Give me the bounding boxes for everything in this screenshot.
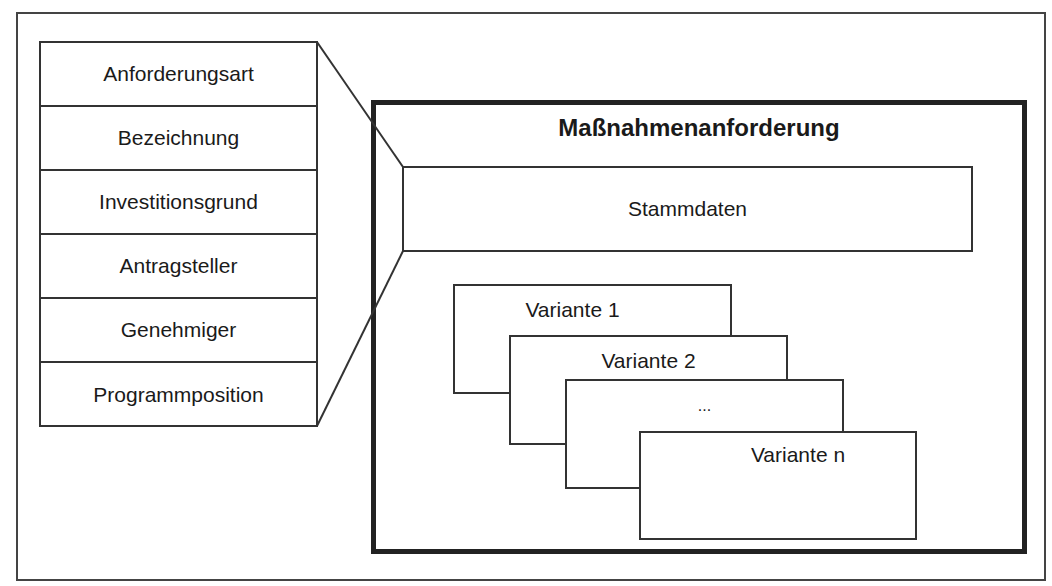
- zoom-connector-lines: [0, 0, 1052, 586]
- connector-line-bottom: [317, 251, 403, 426]
- connector-line-top: [317, 42, 403, 167]
